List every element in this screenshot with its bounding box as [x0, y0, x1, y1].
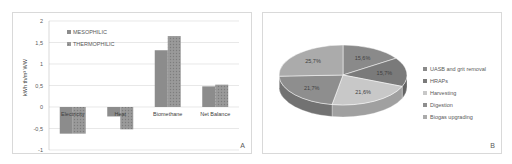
bar-mesophilic [202, 86, 215, 107]
legend-swatch [423, 91, 427, 95]
legend-swatch [67, 42, 71, 46]
legend-swatch [67, 30, 71, 34]
legend-label: HRAPs [430, 78, 448, 84]
x-category-label: Heat [114, 111, 126, 117]
pie-chart: 15,6%15,7%21,6%21,7%25,7%UASB and grit r… [263, 13, 501, 153]
y-axis-label: kWh th/m³ WW [22, 58, 28, 96]
bar-chart-panel: 21,510,50-0,5-1kWh th/m³ WWElectricityHe… [12, 12, 252, 154]
x-category-label: Electricity [61, 111, 85, 117]
legend-label: Biogas upgrading [430, 114, 473, 120]
pie-value-label: 21,6% [355, 89, 371, 95]
y-tick-label: 1,5 [35, 40, 43, 46]
bar-mesophilic [155, 50, 168, 107]
pie-chart-panel: 15,6%15,7%21,6%21,7%25,7%UASB and grit r… [262, 12, 502, 154]
legend-label: THERMOPHILIC [73, 41, 115, 47]
legend-label: MESOPHILIC [73, 29, 107, 35]
legend-swatch [423, 115, 427, 119]
y-tick-label: 0 [40, 104, 43, 110]
y-tick-label: -1 [38, 147, 43, 153]
bar-thermophilic [168, 36, 181, 107]
x-category-label: Biomethane [153, 111, 182, 117]
x-category-label: Net Balance [200, 111, 230, 117]
pie-value-label: 21,7% [304, 85, 320, 91]
legend-swatch [423, 103, 427, 107]
legend-label: Digestion [430, 102, 453, 108]
y-tick-label: -0,5 [34, 126, 43, 132]
y-tick-label: 2 [40, 18, 43, 24]
pie-value-label: 15,7% [377, 70, 393, 76]
legend-swatch [423, 79, 427, 83]
y-tick-label: 0,5 [35, 83, 43, 89]
legend-swatch [423, 67, 427, 71]
legend-label: Harvesting [430, 90, 456, 96]
panel-label-a: A [240, 142, 245, 149]
pie-value-label: 15,6% [355, 55, 371, 61]
pie-value-label: 25,7% [305, 58, 321, 64]
bar-thermophilic [215, 85, 228, 107]
bar-chart: 21,510,50-0,5-1kWh th/m³ WWElectricityHe… [13, 13, 251, 153]
panel-label-b: B [490, 142, 495, 149]
y-tick-label: 1 [40, 61, 43, 67]
legend-label: UASB and grit removal [430, 66, 486, 72]
